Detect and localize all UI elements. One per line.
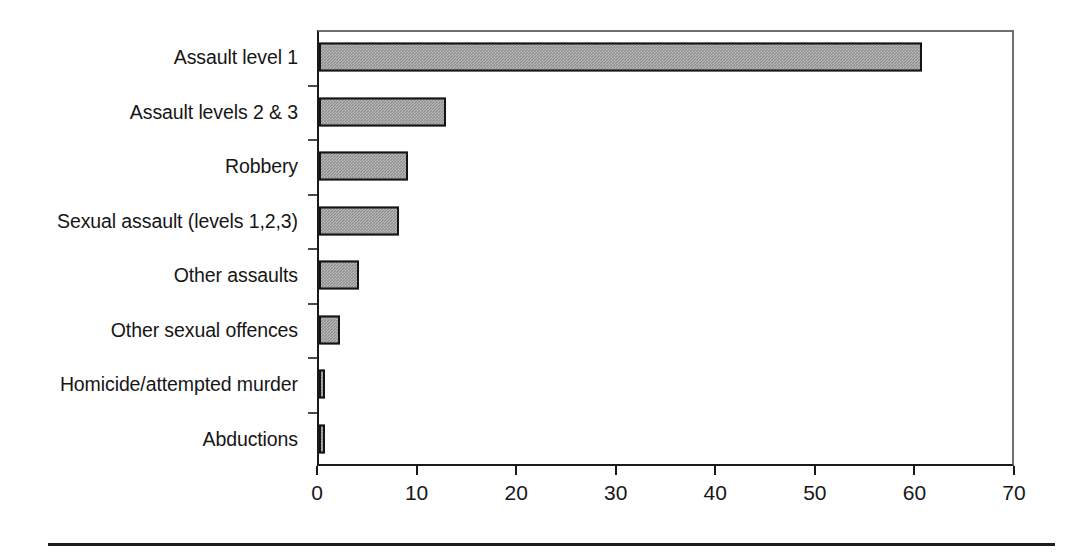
bar bbox=[319, 370, 325, 399]
category-label: Homicide/attempted murder bbox=[0, 373, 298, 395]
category-label: Other sexual offences bbox=[0, 319, 298, 341]
bar-chart-figure: Assault level 1Assault levels 2 & 3Robbe… bbox=[0, 0, 1066, 556]
y-axis-tick bbox=[308, 303, 317, 305]
y-axis-tick bbox=[308, 85, 317, 87]
x-axis-tick bbox=[913, 466, 915, 475]
y-axis-tick bbox=[308, 194, 317, 196]
x-axis-tick-label: 50 bbox=[775, 481, 855, 505]
x-axis-tick-label: 0 bbox=[277, 481, 357, 505]
x-axis-tick-label: 70 bbox=[974, 481, 1054, 505]
x-axis-tick bbox=[814, 466, 816, 475]
category-label: Other assaults bbox=[0, 264, 298, 286]
bar bbox=[319, 97, 446, 126]
y-axis-tick bbox=[308, 357, 317, 359]
category-label: Sexual assault (levels 1,2,3) bbox=[0, 210, 298, 232]
x-axis-tick bbox=[615, 466, 617, 475]
x-axis-tick bbox=[316, 466, 318, 475]
x-axis-tick-label: 20 bbox=[476, 481, 556, 505]
category-label: Assault levels 2 & 3 bbox=[0, 101, 298, 123]
category-label: Abductions bbox=[0, 428, 298, 450]
bar bbox=[319, 152, 408, 181]
x-axis-tick bbox=[416, 466, 418, 475]
y-axis-tick bbox=[308, 139, 317, 141]
bar bbox=[319, 424, 325, 453]
category-label: Assault level 1 bbox=[0, 46, 298, 68]
category-axis-labels: Assault level 1Assault levels 2 & 3Robbe… bbox=[0, 30, 308, 466]
x-axis-tick-label: 40 bbox=[675, 481, 755, 505]
x-axis-tick bbox=[1013, 466, 1015, 475]
bottom-horizontal-rule bbox=[48, 543, 1055, 546]
x-axis-tick-label: 60 bbox=[874, 481, 954, 505]
bar bbox=[319, 206, 399, 235]
bar bbox=[319, 43, 922, 72]
x-axis-tick bbox=[714, 466, 716, 475]
bar bbox=[319, 315, 340, 344]
x-axis-tick bbox=[515, 466, 517, 475]
y-axis-tick bbox=[308, 248, 317, 250]
x-axis-tick-label: 30 bbox=[576, 481, 656, 505]
plot-area bbox=[317, 30, 1014, 466]
x-axis-tick-label: 10 bbox=[377, 481, 457, 505]
bar bbox=[319, 261, 359, 290]
category-label: Robbery bbox=[0, 155, 298, 177]
y-axis-tick bbox=[308, 412, 317, 414]
